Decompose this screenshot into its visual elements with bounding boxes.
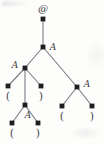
tree-node-n-a-left [23, 66, 28, 71]
tree-edge [25, 47, 43, 68]
tree-node-leaf-l-open [6, 84, 11, 89]
tree-edge [8, 68, 25, 86]
tree-label-n-a-right: A [84, 80, 91, 89]
tree-label-leaf-r-close: ) [90, 111, 94, 122]
tree-label-n-a-left: A [12, 61, 19, 70]
tree-label-leaf-r-open: ( [60, 111, 64, 122]
tree-label-leaf-l-open: ( [6, 91, 10, 102]
tree-label-leaf-l-close: ) [39, 91, 43, 102]
at-symbol-label: @ [38, 4, 48, 14]
parse-tree-figure: @AA(A)()A() [0, 0, 105, 145]
tree-graphics [0, 0, 105, 145]
tree-node-n-a-top [41, 45, 46, 50]
tree-node-leaf-r-open [60, 104, 65, 109]
tree-edge [62, 87, 77, 106]
tree-node-leaf-l-close [39, 84, 44, 89]
tree-node-root [41, 17, 46, 22]
tree-edge [43, 47, 77, 87]
tree-node-leaf-m-open [10, 121, 15, 126]
tree-node-leaf-r-close [90, 104, 95, 109]
tree-edge [12, 105, 25, 123]
tree-node-n-a-mid [23, 103, 28, 108]
tree-edge [77, 87, 92, 106]
tree-label-n-a-top: A [50, 43, 57, 52]
tree-label-leaf-m-open: ( [10, 128, 14, 139]
tree-label-n-a-mid: A [25, 111, 32, 120]
tree-edge [25, 68, 41, 86]
tree-node-leaf-m-close [36, 121, 41, 126]
tree-label-leaf-m-close: ) [36, 128, 40, 139]
tree-node-n-a-right [75, 85, 80, 90]
